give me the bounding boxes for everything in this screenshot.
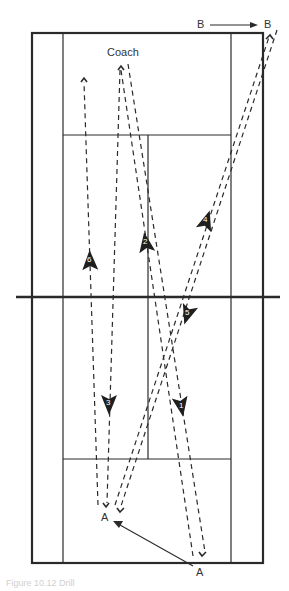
path-end-chevrons [81, 35, 273, 556]
chevron-up-icon [81, 78, 87, 82]
arrow-up-left-icon [113, 521, 123, 528]
coach-label: Coach [107, 47, 139, 58]
player-a-end-label: A [101, 512, 108, 523]
path-6 [84, 82, 98, 505]
player-a-move-line [120, 525, 193, 566]
player-b-end-label: B [264, 19, 271, 30]
shot-number-3: 3 [106, 399, 110, 407]
chevron-down-icon [103, 503, 109, 507]
shot-number-5: 5 [185, 309, 189, 317]
tennis-court-diagram [0, 0, 289, 591]
shot-number-arrowheads [82, 208, 218, 418]
chevron-down-icon [199, 552, 206, 556]
chevron-up-icon [266, 35, 273, 39]
shot-number-2: 2 [143, 238, 147, 246]
arrow-right-icon [250, 22, 258, 28]
path-2 [121, 70, 193, 556]
player-b-start-label: B [197, 19, 204, 30]
player-a-start-label: A [196, 567, 203, 578]
chevron-down-icon [117, 508, 124, 512]
shot-number-4: 4 [203, 216, 207, 224]
court-lines [16, 33, 280, 563]
path-4 [115, 37, 269, 505]
shot-number-1: 1 [179, 402, 183, 410]
shot-paths [84, 30, 277, 556]
path-1 [128, 64, 205, 552]
shot-number-6: 6 [87, 256, 91, 264]
figure-caption: Figure 10.12 Drill [6, 578, 75, 588]
chevron-up-icon [118, 66, 124, 70]
path-5 [121, 30, 277, 506]
